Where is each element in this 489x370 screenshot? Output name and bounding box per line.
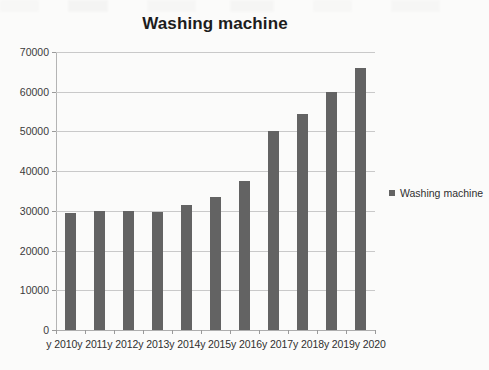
bar bbox=[326, 92, 337, 330]
x-tick-mark bbox=[259, 330, 260, 334]
bar bbox=[181, 205, 192, 330]
y-tick-mark bbox=[52, 171, 56, 172]
x-axis-tick-label: y 2013 bbox=[138, 338, 169, 350]
x-axis-tick-label: y 2015 bbox=[200, 338, 231, 350]
x-axis-tick-label: y 2019 bbox=[324, 338, 355, 350]
y-axis-tick-label: 40000 bbox=[20, 165, 49, 177]
y-tick-mark bbox=[52, 52, 56, 53]
x-axis-tick-label: y 2010 bbox=[46, 338, 77, 350]
x-tick-mark bbox=[85, 330, 86, 334]
x-tick-mark bbox=[114, 330, 115, 334]
x-tick-mark bbox=[288, 330, 289, 334]
x-tick-mark bbox=[143, 330, 144, 334]
y-tick-mark bbox=[52, 131, 56, 132]
y-tick-mark bbox=[52, 251, 56, 252]
x-axis-tick-label: y 2011 bbox=[77, 338, 107, 350]
bar-chart-figure: Washing machine 700006000050000400003000… bbox=[0, 0, 489, 370]
y-axis-tick-label: 0 bbox=[43, 324, 49, 336]
y-gridline bbox=[56, 52, 375, 53]
x-tick-mark bbox=[56, 330, 57, 334]
chart-legend: Washing machine bbox=[389, 187, 483, 199]
y-tick-mark bbox=[52, 92, 56, 93]
y-axis-tick-label: 10000 bbox=[20, 284, 49, 296]
legend-square-marker-icon bbox=[389, 190, 395, 196]
bar bbox=[210, 197, 221, 330]
plot-area: 700006000050000400003000020000100000 bbox=[56, 52, 375, 330]
y-axis-tick-label: 20000 bbox=[20, 245, 49, 257]
bar bbox=[152, 212, 163, 330]
bar bbox=[268, 131, 279, 330]
x-tick-mark bbox=[201, 330, 202, 334]
x-tick-mark bbox=[346, 330, 347, 334]
x-axis-tick-label: y 2012 bbox=[107, 338, 138, 350]
x-tick-mark bbox=[172, 330, 173, 334]
x-tick-mark bbox=[317, 330, 318, 334]
y-tick-mark bbox=[52, 290, 56, 291]
bar bbox=[94, 211, 105, 330]
y-gridline bbox=[56, 330, 375, 331]
bar bbox=[65, 213, 76, 330]
y-tick-mark bbox=[52, 211, 56, 212]
x-axis-tick-labels: y 2010y 2011y 2012y 2013y 2014y 2015y 20… bbox=[46, 338, 386, 350]
y-axis-tick-label: 60000 bbox=[20, 86, 49, 98]
x-axis-tick-label: y 2020 bbox=[355, 338, 386, 350]
x-tick-mark bbox=[375, 330, 376, 334]
x-tick-mark bbox=[230, 330, 231, 334]
y-axis-tick-label: 70000 bbox=[20, 46, 49, 58]
chart-title: Washing machine bbox=[0, 14, 430, 34]
x-axis-tick-label: y 2014 bbox=[169, 338, 200, 350]
y-axis-tick-label: 30000 bbox=[20, 205, 49, 217]
bar bbox=[239, 181, 250, 330]
bar bbox=[355, 68, 366, 330]
y-axis-tick-label: 50000 bbox=[20, 125, 49, 137]
bar bbox=[297, 114, 308, 330]
x-axis-tick-label: y 2016 bbox=[231, 338, 262, 350]
bar bbox=[123, 211, 134, 330]
legend-label: Washing machine bbox=[400, 187, 483, 199]
x-axis-tick-label: y 2018 bbox=[293, 338, 324, 350]
x-axis-tick-label: y 2017 bbox=[262, 338, 293, 350]
